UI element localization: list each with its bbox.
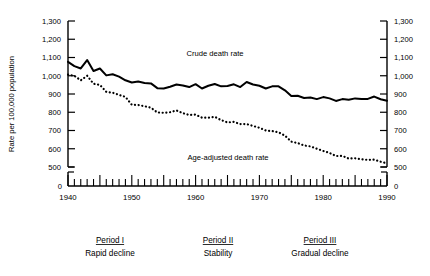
y-axis-tick-labels-left: 1,3001,2001,1001,000900800700600500	[42, 17, 61, 172]
y-tick-label-right-900: 900	[394, 90, 407, 99]
series-line-age-adjusted-death-rate	[68, 75, 387, 164]
y-axis-tick-labels-right: 1,3001,2001,1001,000900800700600500	[394, 17, 413, 172]
period-subtitle-1: Rapid decline	[85, 249, 135, 258]
y-tick-label-left-900: 900	[48, 90, 61, 99]
right-axis	[381, 21, 387, 186]
x-tick-label-1950: 1950	[123, 193, 141, 202]
y-axis-ticks-left	[68, 21, 75, 167]
period-title-2: Period II	[203, 236, 234, 245]
x-tick-label-1940: 1940	[59, 193, 77, 202]
y-axis-ticks-right	[380, 21, 387, 167]
left-axis	[68, 21, 74, 186]
y-axis-zero-label-right: 0	[394, 182, 398, 191]
y-tick-label-left-800: 800	[48, 108, 61, 117]
x-axis-tick-labels: 194019501960197019801990	[59, 193, 396, 202]
y-tick-label-left-1100: 1,100	[42, 53, 61, 62]
x-tick-label-1960: 1960	[187, 193, 205, 202]
y-tick-label-left-1300: 1,300	[42, 17, 61, 26]
y-tick-label-right-800: 800	[394, 108, 407, 117]
age-adjusted-death-rate-label: Age-adjusted death rate	[187, 153, 268, 162]
y-tick-label-right-1000: 1,000	[394, 72, 413, 81]
y-tick-label-left-1200: 1,200	[42, 35, 61, 44]
chart-figure: 1,3001,2001,1001,000900800700600500 1,30…	[0, 0, 430, 276]
y-axis-title: Rate per 100,000 population	[7, 56, 16, 152]
y-tick-label-right-700: 700	[394, 126, 407, 135]
x-tick-label-1990: 1990	[378, 193, 396, 202]
y-tick-label-right-1100: 1,100	[394, 53, 413, 62]
y-tick-label-left-700: 700	[48, 126, 61, 135]
period-title-3: Period III	[304, 236, 337, 245]
y-tick-label-right-1200: 1,200	[394, 35, 413, 44]
y-tick-label-right-600: 600	[394, 145, 407, 154]
y-tick-label-left-500: 500	[48, 163, 61, 172]
series-line-crude-death-rate	[68, 60, 387, 101]
y-tick-label-right-500: 500	[394, 163, 407, 172]
y-tick-label-right-1300: 1,300	[394, 17, 413, 26]
x-tick-label-1980: 1980	[315, 193, 333, 202]
period-title-1: Period I	[96, 236, 124, 245]
y-tick-label-left-600: 600	[48, 145, 61, 154]
series-group	[68, 60, 387, 163]
period-subtitle-2: Stability	[204, 249, 234, 258]
death-rate-line-chart: 1,3001,2001,1001,000900800700600500 1,30…	[0, 0, 430, 276]
y-axis-zero-label-left: 0	[58, 182, 62, 191]
period-subtitle-3: Gradual decline	[291, 249, 349, 258]
x-axis-ticks	[68, 175, 387, 186]
x-tick-label-1970: 1970	[251, 193, 269, 202]
crude-death-rate-label: Crude death rate	[187, 49, 244, 58]
period-captions: Period IRapid declinePeriod IIStabilityP…	[85, 236, 349, 258]
y-tick-label-left-1000: 1,000	[42, 72, 61, 81]
